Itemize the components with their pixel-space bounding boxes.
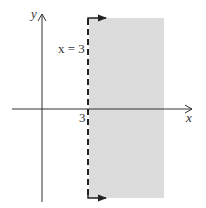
boundary-label: x = 3 [58,41,85,56]
inequality-graph: y x x = 3 3 [0,0,206,208]
x-axis-label: x [185,110,192,125]
y-axis-label: y [29,6,37,21]
tick-label-3: 3 [79,110,86,125]
shaded-region [89,18,164,198]
